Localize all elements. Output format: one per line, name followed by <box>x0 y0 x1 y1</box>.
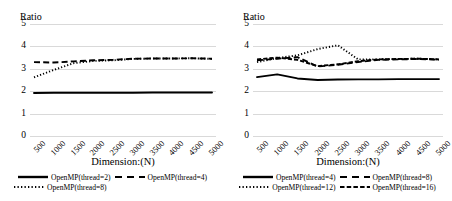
y-tick-label: 0 <box>8 131 26 141</box>
legend-key-solid-icon <box>243 173 273 181</box>
gridline <box>253 136 443 137</box>
legend-row: OpenMP(thread=8) <box>0 182 225 192</box>
legend-label: OpenMP(thread=12) <box>272 183 335 192</box>
legend-label: OpenMP(thread=16) <box>373 183 436 192</box>
chart-panel-right: Ratio 012345 500100015002000250030003500… <box>225 0 450 201</box>
x-axis-title: Dimension:(N) <box>253 156 443 167</box>
legend-label: OpenMP(thread=2) <box>51 173 111 182</box>
y-tick-label: 3 <box>231 64 249 74</box>
y-tick-label: 5 <box>231 19 249 29</box>
plot-area-right <box>253 24 443 136</box>
legend-label: OpenMP(thread=8) <box>47 183 107 192</box>
legend-label: OpenMP(thread=4) <box>276 173 336 182</box>
legend-row: OpenMP(thread=2) OpenMP(thread=4) <box>0 172 225 182</box>
series-line <box>257 58 439 67</box>
legend-item-thread8[interactable]: OpenMP(thread=8) <box>14 183 107 192</box>
series-line <box>34 58 212 77</box>
legend-item-thread4[interactable]: OpenMP(thread=4) <box>115 173 208 182</box>
y-tick-label: 3 <box>8 64 26 74</box>
legend-key-dashed-icon <box>115 173 145 181</box>
legend-key-dotted-icon <box>239 183 269 191</box>
plot-area-left <box>30 24 216 136</box>
legend-row: OpenMP(thread=4) OpenMP(thread=8) <box>225 172 450 182</box>
legend-label: OpenMP(thread=8) <box>373 173 433 182</box>
y-tick-label: 2 <box>231 86 249 96</box>
y-tick-label: 1 <box>231 109 249 119</box>
y-tick-label: 2 <box>8 86 26 96</box>
legend-key-dotted-icon <box>14 183 44 191</box>
legend-key-dashdot-icon <box>340 183 370 191</box>
legend-row: OpenMP(thread=12) OpenMP(thread=16) <box>225 182 450 192</box>
series-lines-left <box>30 24 216 136</box>
legend-key-dashed-icon <box>340 173 370 181</box>
legend-label: OpenMP(thread=4) <box>148 173 208 182</box>
legend-left: OpenMP(thread=2) OpenMP(thread=4) OpenMP… <box>0 172 225 192</box>
chart-panel-left: Ratio 012345 500100015002000250030003500… <box>0 0 225 201</box>
legend-item-thread8[interactable]: OpenMP(thread=8) <box>340 173 433 182</box>
x-axis-title: Dimension:(N) <box>30 156 216 167</box>
y-tick-label: 4 <box>8 41 26 51</box>
legend-item-thread4[interactable]: OpenMP(thread=4) <box>243 173 336 182</box>
legend-key-solid-icon <box>18 173 48 181</box>
legend-item-thread16[interactable]: OpenMP(thread=16) <box>340 183 436 192</box>
legend-item-thread2[interactable]: OpenMP(thread=2) <box>18 173 111 182</box>
y-tick-label: 1 <box>8 109 26 119</box>
series-lines-right <box>253 24 443 136</box>
legend-right: OpenMP(thread=4) OpenMP(thread=8) OpenMP… <box>225 172 450 192</box>
legend-item-thread12[interactable]: OpenMP(thread=12) <box>239 183 335 192</box>
y-tick-label: 4 <box>231 41 249 51</box>
y-tick-label: 5 <box>8 19 26 29</box>
series-line <box>257 74 439 80</box>
y-tick-label: 0 <box>231 131 249 141</box>
gridline <box>30 136 216 137</box>
